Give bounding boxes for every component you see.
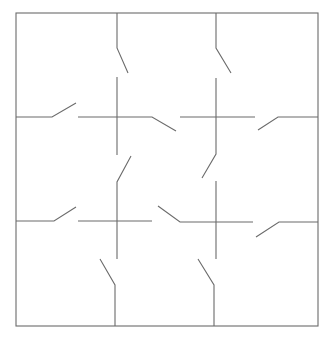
top-right-vertical-upper [216,13,231,73]
center-left-vertical-lower [117,156,131,259]
center-right-horizontal-lower [158,206,253,222]
switch-grid-diagram [0,0,329,342]
top-left-vertical-upper [117,13,128,73]
left-horizontal-lower [16,207,76,221]
right-horizontal-lower [256,222,318,237]
center-left-horizontal-upper [78,117,176,131]
outer-box [16,13,318,326]
right-horizontal-upper [258,117,318,130]
bottom-right-vertical [198,259,214,326]
center-right-vertical-upper [202,78,216,178]
switch-segments [16,13,318,326]
left-horizontal-upper [16,103,76,117]
diagram-svg [0,0,329,342]
bottom-left-vertical [100,259,115,326]
